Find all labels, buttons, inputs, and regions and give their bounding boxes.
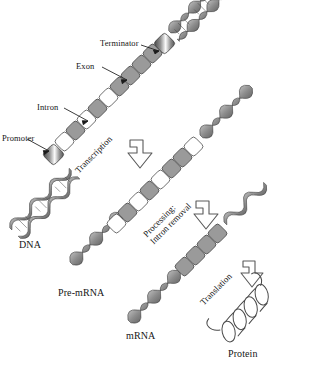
- callout-label-promoter: Promoter: [2, 134, 34, 143]
- transcription-arrow: [128, 140, 152, 168]
- processing-arrow: [194, 201, 218, 229]
- molecule-label-pre-mrna: Pre-mRNA: [58, 288, 104, 299]
- pre-mrna-ribbon-top: [196, 82, 255, 141]
- diagram-canvas: Terminator Exon Intron Promoter DNA Pre-…: [0, 0, 312, 368]
- gene-expression-figure: [0, 0, 312, 368]
- mrna-body: [174, 223, 228, 277]
- mrna-ribbon-top: [220, 179, 269, 228]
- mrna-ribbon: [124, 267, 183, 326]
- dna-helix-left: [7, 165, 83, 241]
- callout-label-exon: Exon: [76, 62, 94, 71]
- molecule-label-mrna: mRNA: [126, 331, 155, 342]
- molecule-label-dna: DNA: [19, 240, 41, 251]
- dna-helix-right: [166, 0, 232, 45]
- protein-coil: [197, 270, 283, 349]
- callout-label-intron: Intron: [37, 103, 58, 112]
- callout-label-terminator: Terminator: [100, 39, 139, 48]
- molecule-label-protein: Protein: [228, 349, 258, 360]
